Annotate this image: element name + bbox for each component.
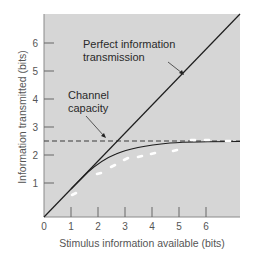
annotation-perfect-line2: transmission: [83, 51, 145, 63]
x-tick-label: 1: [68, 221, 74, 232]
y-tick-label: 1: [32, 178, 38, 189]
y-tick-label: 4: [32, 94, 38, 105]
x-tick-label: 2: [95, 221, 101, 232]
chart: 1 2 3 4 5 6 0 1 2 3 4 5 6 Stimulus infor…: [0, 0, 253, 258]
annotation-capacity-line2: capacity: [68, 102, 109, 114]
x-axis-title: Stimulus information available (bits): [59, 237, 225, 249]
annotation-capacity-line1: Channel: [68, 89, 109, 101]
annotation-perfect-line1: Perfect information: [83, 38, 175, 50]
y-axis-title: Information transmitted (bits): [16, 50, 28, 184]
y-tick-label: 2: [32, 150, 38, 161]
x-tick-label: 5: [176, 221, 182, 232]
x-tick-label: 6: [203, 221, 209, 232]
x-tick-label: 4: [149, 221, 155, 232]
y-tick-label: 5: [32, 66, 38, 77]
y-tick-label: 3: [32, 122, 38, 133]
x-tick-label: 3: [122, 221, 128, 232]
y-tick-label: 6: [32, 38, 38, 49]
x-tick-label: 0: [41, 221, 47, 232]
